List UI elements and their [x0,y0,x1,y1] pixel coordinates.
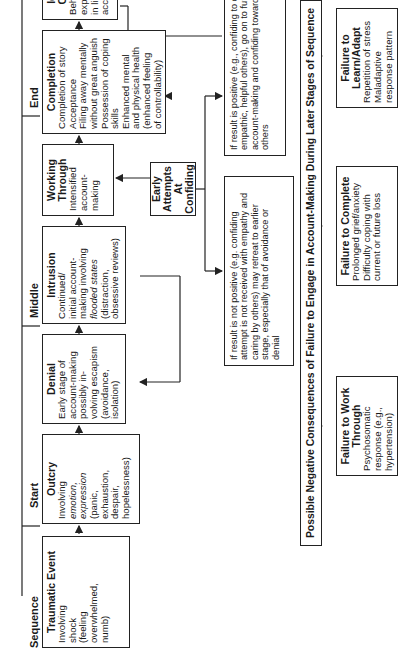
stage-traumatic-event: Traumatic Event Involving shock (feeling… [42,536,130,648]
stage-title: Identity Change [46,0,68,15]
stage-working-through: Working Through Intensified account- mak… [42,144,114,216]
failure-to-work-through: Failure to Work Through Psychosomatic re… [336,376,398,476]
stage-title: Working Through [46,149,68,211]
phase-end-label: End [28,87,40,108]
consequences-banner: Possible Negative Consequences of Failur… [300,0,322,546]
early-attempts-confiding-box: Early Attempts At Confiding [150,162,196,216]
stage-identity-change: Identity Change Behavioral expectations … [42,0,118,20]
stage-intrusion: Intrusion Continued/ initial account- ma… [42,226,126,324]
negative-result-note: If result is not positive (e.g. confidin… [224,176,294,366]
failure-to-complete: Failure to Complete Prolonged grief/anxi… [336,166,398,286]
phase-middle-label: Middle [28,283,40,318]
stage-outcry: Outcry Involving emotion, expression (pa… [42,434,140,524]
failure-title: Failure to Learn/Adapt [340,13,362,103]
positive-result-note: If result is positive (e.g., confiding t… [224,0,286,156]
account-making-diagram: Sequence Start Middle End Traumatic Even… [0,0,416,656]
phase-start-label: Start [28,483,40,508]
failure-title: Failure to Work Through [340,381,362,471]
phase-sequence-label: Sequence [28,596,40,648]
stage-completion: Completion Completion of story Acceptanc… [42,30,166,134]
stage-denial: Denial Early stage of account-making pos… [42,334,126,424]
failure-to-learn-adapt: Failure to Learn/Adapt Repetition of str… [336,8,398,108]
confiding-title: Early Attempts At Confiding [151,164,196,213]
